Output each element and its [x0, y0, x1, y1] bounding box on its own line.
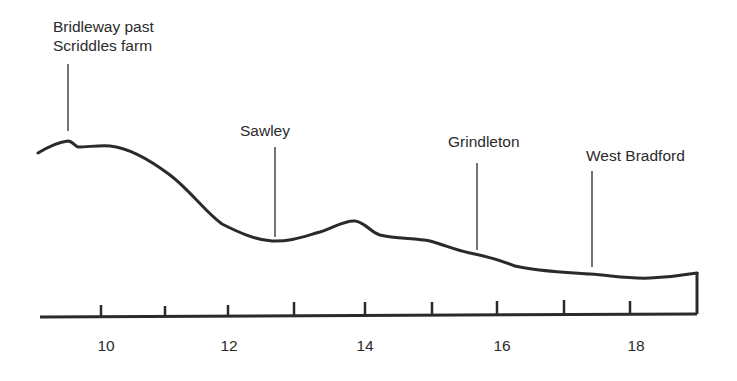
axis-label-12: 12 [220, 337, 237, 355]
landmark-label-line1: Bridleway past [53, 17, 154, 36]
distance-axis [40, 314, 697, 317]
elevation-profile-diagram [0, 0, 737, 381]
landmark-label-west-bradford: West Bradford [586, 146, 685, 165]
landmark-label-sawley: Sawley [240, 121, 290, 140]
landmark-label-line2: Scriddles farm [53, 36, 154, 55]
landmark-label-bridleway: Bridleway past Scriddles farm [53, 17, 154, 55]
axis-label-16: 16 [493, 337, 510, 355]
axis-label-10: 10 [97, 337, 114, 355]
axis-label-18: 18 [627, 337, 644, 355]
axis-label-14: 14 [356, 337, 373, 355]
landmark-label-grindleton: Grindleton [448, 132, 520, 151]
